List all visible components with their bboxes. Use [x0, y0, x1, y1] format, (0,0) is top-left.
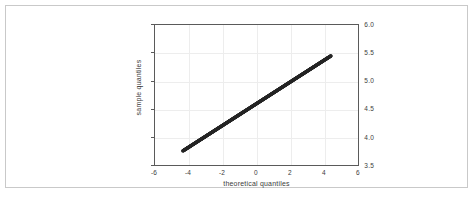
- document-frame: 6.0 5.5 5.0 4.5 4.0 3.5 -6 -4 -2 0 2 4 6: [5, 5, 468, 188]
- y-axis-label: sample quantiles: [135, 43, 142, 133]
- screenshot-root: 6.0 5.5 5.0 4.5 4.0 3.5 -6 -4 -2 0 2 4 6: [0, 0, 476, 203]
- qq-data-series: [155, 25, 358, 165]
- x-tick-label: 6: [348, 169, 368, 176]
- x-tick-label: 0: [246, 169, 266, 176]
- x-tick-label: 4: [314, 169, 334, 176]
- x-tick-label: -2: [212, 169, 232, 176]
- x-tick-label: -4: [178, 169, 198, 176]
- x-tick-label: 2: [280, 169, 300, 176]
- plot-area: [154, 24, 359, 166]
- x-tick-label: -6: [144, 169, 164, 176]
- x-axis-label: theoretical quantiles: [154, 180, 359, 187]
- qq-plot-figure: 6.0 5.5 5.0 4.5 4.0 3.5 -6 -4 -2 0 2 4 6: [124, 14, 374, 197]
